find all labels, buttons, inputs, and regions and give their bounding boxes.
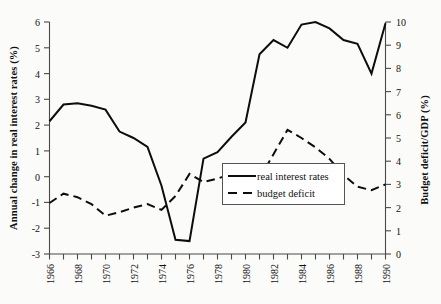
right-tick-label: 4 — [396, 156, 401, 167]
left-tick-label: -2 — [32, 223, 40, 234]
right-axis-title: Budget deficit/GDP (%) — [419, 95, 431, 205]
x-tick-label: 1968 — [73, 264, 84, 284]
right-tick-label: 10 — [396, 17, 406, 28]
x-tick-label: 1982 — [269, 264, 280, 284]
right-tick-label: 0 — [396, 249, 401, 260]
chart-figure: 6 5 4 3 2 1 0 -1 -2 -3 Annual change in … — [0, 0, 441, 304]
x-tick-label: 1970 — [101, 264, 112, 284]
left-tick-label: 3 — [35, 94, 40, 105]
legend-label-real-interest-rates: real interest rates — [257, 171, 329, 182]
right-tick-label: 7 — [396, 87, 401, 98]
x-tick-label: 1988 — [353, 264, 364, 284]
left-tick-label: 5 — [35, 43, 40, 54]
right-tick-label: 6 — [396, 110, 401, 121]
legend: real interest rates budget deficit — [223, 164, 345, 205]
x-tick-label: 1966 — [45, 264, 56, 284]
left-axis-title: Annual change in real interest rates (%) — [8, 46, 20, 230]
left-tick-label: -3 — [32, 249, 40, 260]
x-tick-label: 1972 — [129, 264, 140, 284]
left-tick-label: 6 — [35, 17, 40, 28]
right-tick-label: 8 — [396, 63, 401, 74]
left-tick-label: 2 — [35, 120, 40, 131]
right-tick-label: 5 — [396, 133, 401, 144]
x-tick-label: 1978 — [213, 264, 224, 284]
left-tick-label: 1 — [35, 146, 40, 157]
left-tick-label: -1 — [32, 197, 40, 208]
x-tick-label: 1984 — [297, 264, 308, 284]
chart-background — [0, 0, 441, 304]
x-tick-label: 1980 — [241, 264, 252, 284]
x-tick-label: 1976 — [185, 264, 196, 284]
left-tick-label: 0 — [35, 172, 40, 183]
x-tick-label: 1990 — [381, 264, 392, 284]
x-tick-label: 1974 — [157, 264, 168, 284]
x-tick-label: 1986 — [325, 264, 336, 284]
legend-label-budget-deficit: budget deficit — [257, 188, 315, 199]
right-tick-label: 3 — [396, 179, 401, 190]
right-tick-label: 9 — [396, 40, 401, 51]
left-tick-label: 4 — [35, 69, 40, 80]
right-tick-label: 1 — [396, 226, 401, 237]
right-tick-label: 2 — [396, 203, 401, 214]
